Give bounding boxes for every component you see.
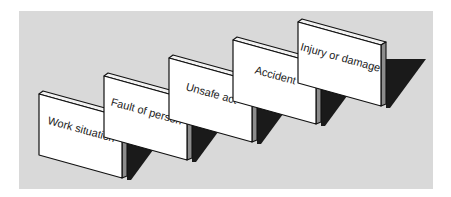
diagram-canvas: Work situationFault of personUnsafe actA…: [0, 0, 451, 197]
domino-diagram: Work situationFault of personUnsafe actA…: [0, 0, 451, 197]
block-side-face: [381, 42, 386, 106]
